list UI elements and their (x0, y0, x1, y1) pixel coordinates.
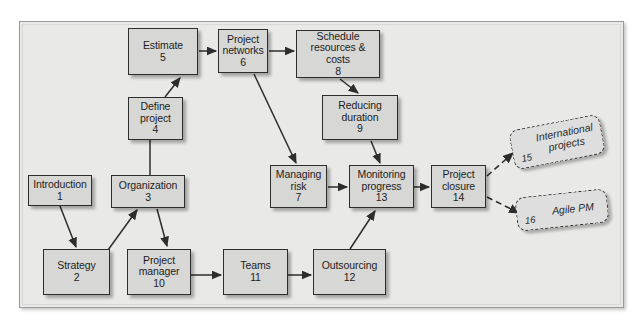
node-label: Managing risk 7 (274, 169, 323, 204)
node-label: Organization 3 (117, 180, 179, 203)
node-label: Estimate 5 (141, 40, 185, 63)
node-organization[interactable]: Organization 3 (111, 175, 185, 208)
node-label: Outsourcing 12 (320, 260, 380, 283)
node-project-networks[interactable]: Project networks 6 (218, 29, 268, 73)
node-label: Strategy 2 (55, 260, 97, 283)
node-strategy[interactable]: Strategy 2 (43, 249, 110, 295)
callout-label: International projects (534, 122, 597, 156)
node-label: Monitoring progress 13 (355, 169, 407, 204)
node-label: Project closure 14 (440, 169, 477, 204)
node-label: Teams 11 (238, 260, 272, 283)
node-project-manager[interactable]: Project manager 10 (127, 249, 191, 295)
callout-number: 16 (524, 214, 536, 226)
node-define-project[interactable]: Define project 4 (128, 97, 183, 140)
node-estimate[interactable]: Estimate 5 (128, 28, 198, 75)
node-reducing-duration[interactable]: Reducing duration 9 (322, 95, 398, 140)
node-label: Reducing duration 9 (336, 100, 384, 135)
node-outsourcing[interactable]: Outsourcing 12 (313, 249, 386, 295)
node-label: Schedule resources & costs 8 (297, 31, 379, 77)
node-teams[interactable]: Teams 11 (223, 249, 288, 295)
node-label: Define project 4 (138, 101, 173, 136)
diagram-canvas: Introduction 1 Strategy 2 Organization 3… (0, 0, 642, 331)
callout-number: 15 (520, 151, 532, 164)
node-schedule-resources-costs[interactable]: Schedule resources & costs 8 (296, 30, 380, 78)
node-label: Project networks 6 (220, 34, 265, 69)
node-label: Introduction 1 (31, 179, 89, 202)
node-managing-risk[interactable]: Managing risk 7 (270, 165, 327, 208)
node-introduction[interactable]: Introduction 1 (28, 175, 92, 206)
node-project-closure[interactable]: Project closure 14 (431, 165, 486, 208)
node-monitoring-progress[interactable]: Monitoring progress 13 (349, 165, 414, 208)
node-label: Project manager 10 (137, 255, 182, 290)
callout-label: Agile PM (543, 200, 604, 217)
